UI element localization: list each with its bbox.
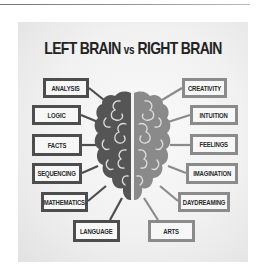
label-creativity: CREATIVITY	[182, 78, 227, 98]
label-sequencing: SEQUENCING	[32, 163, 82, 184]
label-imagination: IMAGINATION	[186, 163, 238, 184]
label-language: LANGUAGE	[73, 220, 120, 242]
label-arts: ARTS	[148, 220, 195, 242]
label-daydreaming: DAYDREAMING	[178, 192, 230, 212]
label-intuition: INTUITION	[190, 105, 238, 125]
label-analysis: ANALYSIS	[43, 78, 89, 98]
label-mathematics: MATHEMATICS	[41, 192, 88, 212]
label-feelings: FEELINGS	[190, 134, 238, 155]
label-facts: FACTS	[32, 134, 82, 156]
label-logic: LOGIC	[32, 105, 81, 125]
